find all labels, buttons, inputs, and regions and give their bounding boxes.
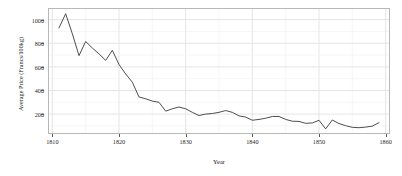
- x-tick-label: 1830: [179, 138, 191, 145]
- x-tick-mark: [119, 134, 120, 137]
- x-tick-mark: [252, 134, 253, 137]
- x-axis-title: Year: [48, 158, 390, 165]
- x-tick-mark: [52, 134, 53, 137]
- x-tick-label: 1810: [46, 138, 58, 145]
- x-tick-label: 1850: [313, 138, 325, 145]
- y-tick-label: 800: [4, 40, 44, 47]
- plot-area: [49, 9, 389, 133]
- y-tick-label: 400: [4, 87, 44, 94]
- x-axis-tick-labels: 181018201830184018501860: [48, 134, 390, 148]
- y-tick-mark: [41, 114, 44, 115]
- y-tick-label: 200: [4, 111, 44, 118]
- x-tick-mark: [319, 134, 320, 137]
- y-tick-mark: [41, 20, 44, 21]
- plot-panel: [48, 8, 390, 134]
- y-tick-mark: [41, 43, 44, 44]
- x-tick-label: 1840: [246, 138, 258, 145]
- y-tick-mark: [41, 67, 44, 68]
- x-tick-label: 1820: [113, 138, 125, 145]
- y-tick-label: 1000: [4, 16, 44, 23]
- chart-container: Average Price (Francs/100kg) 20040060080…: [0, 0, 402, 176]
- x-tick-mark: [386, 134, 387, 137]
- x-tick-mark: [186, 134, 187, 137]
- y-tick-mark: [41, 90, 44, 91]
- y-tick-label: 600: [4, 63, 44, 70]
- x-tick-label: 1860: [379, 138, 391, 145]
- y-axis-tick-labels: 2004006008001000: [0, 8, 44, 134]
